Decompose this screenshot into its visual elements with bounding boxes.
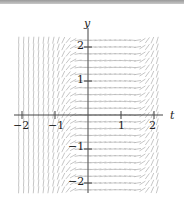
y-tick-label-1: 1 xyxy=(77,74,84,85)
x-tick-label-neg1: −1 xyxy=(48,120,64,131)
axes xyxy=(14,28,163,193)
y-axis-title: y xyxy=(84,18,90,29)
x-tick-label-1: 1 xyxy=(118,120,125,131)
x-tick-label-2: 2 xyxy=(149,120,156,131)
y-axis-label: t xyxy=(170,110,174,121)
y-tick-label-neg1: −1 xyxy=(68,141,84,152)
y-tick-label-2: 2 xyxy=(77,40,84,51)
y-tick-label-neg2: −2 xyxy=(68,176,84,187)
x-tick-label-neg2: −2 xyxy=(13,120,29,131)
slope-field-plot xyxy=(0,0,184,202)
